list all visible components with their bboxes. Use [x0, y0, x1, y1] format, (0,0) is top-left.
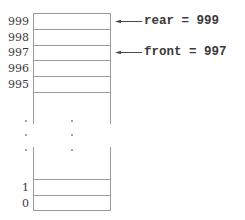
- slot-index-label: 999: [4, 14, 29, 29]
- slot-index-label: 997: [4, 45, 29, 60]
- queue-array-diagram: 999 998 997 996 995 1 0 rear = 999 front…: [0, 0, 245, 220]
- ellipsis-dots: [25, 120, 73, 151]
- slot-index-label: 998: [4, 30, 29, 45]
- rear-arrow-icon: [115, 17, 143, 26]
- array-box-graphic: [0, 0, 245, 220]
- slot-index-label: 0: [4, 196, 29, 211]
- slot-index-label: 995: [4, 77, 29, 92]
- slot-index-label: 1: [4, 180, 29, 195]
- front-arrow-icon: [115, 48, 143, 57]
- front-pointer-label: front = 997: [144, 45, 227, 59]
- rear-pointer-label: rear = 999: [144, 14, 219, 28]
- slot-index-label: 996: [4, 61, 29, 76]
